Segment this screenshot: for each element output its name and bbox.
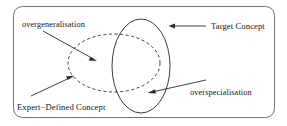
diagram-figure: Expert-Defined Concept versus Target Con… bbox=[0, 0, 287, 126]
concept-overlap-diagram: Expert-Defined Concept versus Target Con… bbox=[0, 0, 287, 126]
label-target-concept: Target Concept bbox=[211, 21, 265, 31]
label-overspecialisation: overspecialisation bbox=[190, 88, 252, 97]
label-overgeneralisation: overgeneralisation bbox=[22, 20, 86, 29]
label-expert-defined-concept: Expert−Defined Concept bbox=[17, 102, 106, 112]
